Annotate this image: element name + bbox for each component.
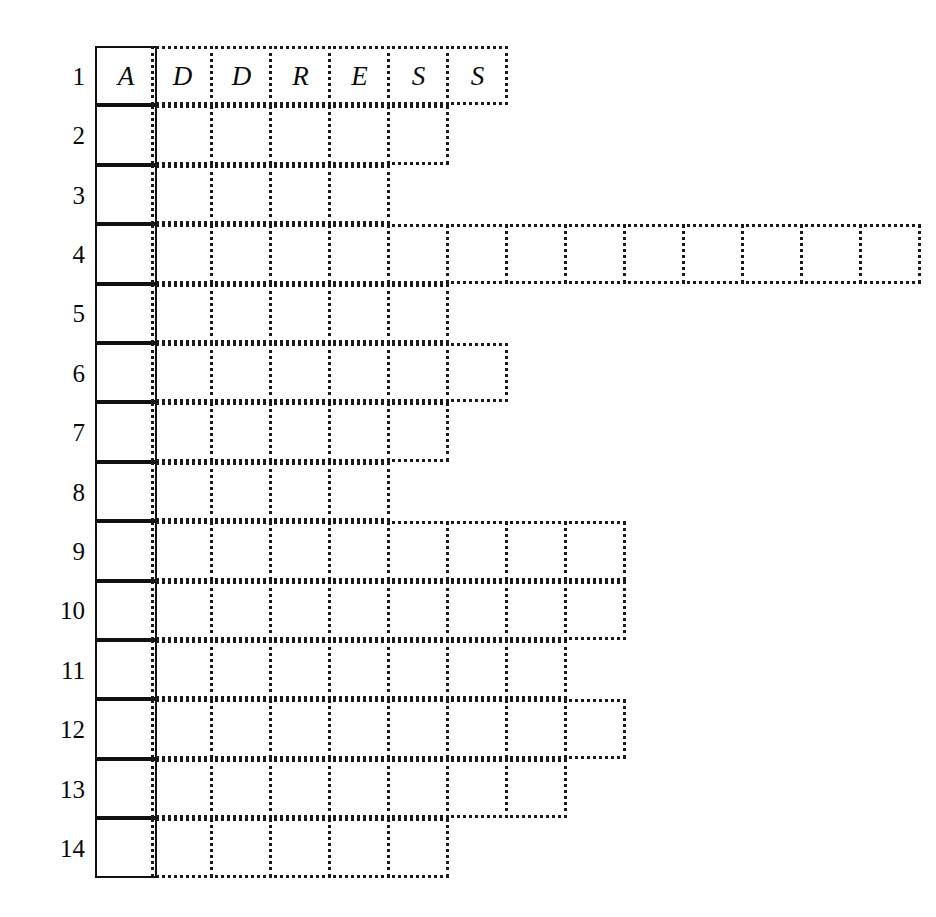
- answer-cell[interactable]: [505, 581, 567, 640]
- answer-cell[interactable]: R: [269, 46, 331, 105]
- answer-cell[interactable]: [387, 759, 449, 818]
- answer-cell[interactable]: [387, 699, 449, 758]
- answer-cell-solid[interactable]: [95, 224, 157, 283]
- answer-cell[interactable]: [387, 521, 449, 580]
- answer-cell[interactable]: [564, 224, 626, 283]
- answer-cell[interactable]: [151, 284, 213, 343]
- answer-cell[interactable]: [210, 699, 272, 758]
- answer-cell[interactable]: [387, 105, 449, 164]
- answer-cell[interactable]: [210, 640, 272, 699]
- answer-cell[interactable]: [210, 462, 272, 521]
- answer-cell[interactable]: [210, 818, 272, 877]
- answer-cell-solid[interactable]: [95, 818, 157, 877]
- answer-cell[interactable]: [151, 343, 213, 402]
- answer-cell[interactable]: [151, 818, 213, 877]
- answer-cell[interactable]: [564, 581, 626, 640]
- answer-cell[interactable]: [446, 224, 508, 283]
- answer-cell[interactable]: [269, 581, 331, 640]
- answer-cell[interactable]: [269, 818, 331, 877]
- answer-cell[interactable]: [328, 818, 390, 877]
- answer-cell[interactable]: [328, 165, 390, 224]
- answer-cell[interactable]: [623, 224, 685, 283]
- answer-cell[interactable]: [151, 581, 213, 640]
- answer-cell[interactable]: [151, 105, 213, 164]
- answer-cell[interactable]: [446, 699, 508, 758]
- answer-cell-solid[interactable]: [95, 699, 157, 758]
- answer-cell[interactable]: [151, 759, 213, 818]
- answer-cell-solid[interactable]: A: [95, 46, 157, 105]
- answer-cell[interactable]: [446, 640, 508, 699]
- answer-cell[interactable]: [328, 284, 390, 343]
- answer-cell[interactable]: [328, 759, 390, 818]
- answer-cell[interactable]: [269, 521, 331, 580]
- answer-cell[interactable]: [210, 105, 272, 164]
- answer-cell[interactable]: [387, 818, 449, 877]
- answer-cell[interactable]: [269, 402, 331, 461]
- answer-cell[interactable]: [328, 640, 390, 699]
- answer-cell[interactable]: D: [210, 46, 272, 105]
- answer-cell[interactable]: [210, 402, 272, 461]
- answer-cell[interactable]: [151, 699, 213, 758]
- answer-cell[interactable]: [387, 224, 449, 283]
- answer-cell[interactable]: [328, 105, 390, 164]
- answer-cell[interactable]: [387, 343, 449, 402]
- answer-cell[interactable]: [210, 521, 272, 580]
- answer-cell[interactable]: [505, 759, 567, 818]
- answer-cell[interactable]: [210, 759, 272, 818]
- answer-cell[interactable]: [564, 699, 626, 758]
- answer-cell[interactable]: [387, 581, 449, 640]
- answer-cell[interactable]: [328, 462, 390, 521]
- answer-cell[interactable]: [210, 224, 272, 283]
- answer-cell[interactable]: [859, 224, 921, 283]
- answer-cell[interactable]: [151, 521, 213, 580]
- answer-cell[interactable]: [269, 759, 331, 818]
- answer-cell[interactable]: [210, 165, 272, 224]
- answer-cell[interactable]: [269, 284, 331, 343]
- answer-cell-solid[interactable]: [95, 284, 157, 343]
- answer-cell[interactable]: [269, 462, 331, 521]
- answer-cell[interactable]: [328, 402, 390, 461]
- answer-cell[interactable]: [505, 224, 567, 283]
- answer-cell[interactable]: [564, 521, 626, 580]
- answer-cell[interactable]: [151, 462, 213, 521]
- answer-cell-solid[interactable]: [95, 640, 157, 699]
- answer-cell-solid[interactable]: [95, 165, 157, 224]
- answer-cell[interactable]: [210, 284, 272, 343]
- answer-cell[interactable]: [328, 699, 390, 758]
- answer-cell[interactable]: [151, 165, 213, 224]
- answer-cell-solid[interactable]: [95, 105, 157, 164]
- answer-cell[interactable]: [328, 224, 390, 283]
- answer-cell[interactable]: [328, 343, 390, 402]
- answer-cell[interactable]: S: [446, 46, 508, 105]
- answer-cell[interactable]: [210, 343, 272, 402]
- answer-cell[interactable]: [446, 521, 508, 580]
- answer-cell[interactable]: [269, 343, 331, 402]
- answer-cell[interactable]: [387, 284, 449, 343]
- answer-cell[interactable]: [210, 581, 272, 640]
- answer-cell[interactable]: [151, 224, 213, 283]
- answer-cell-solid[interactable]: [95, 521, 157, 580]
- answer-cell-solid[interactable]: [95, 581, 157, 640]
- answer-cell[interactable]: [269, 165, 331, 224]
- answer-cell[interactable]: [505, 640, 567, 699]
- answer-cell[interactable]: [387, 640, 449, 699]
- answer-cell[interactable]: S: [387, 46, 449, 105]
- answer-cell-solid[interactable]: [95, 462, 157, 521]
- answer-cell[interactable]: [269, 105, 331, 164]
- answer-cell[interactable]: [387, 402, 449, 461]
- answer-cell[interactable]: [446, 581, 508, 640]
- answer-cell[interactable]: [151, 640, 213, 699]
- answer-cell[interactable]: [800, 224, 862, 283]
- answer-cell[interactable]: [328, 521, 390, 580]
- answer-cell[interactable]: [682, 224, 744, 283]
- answer-cell[interactable]: D: [151, 46, 213, 105]
- answer-cell-solid[interactable]: [95, 402, 157, 461]
- answer-cell[interactable]: [446, 759, 508, 818]
- answer-cell[interactable]: [269, 224, 331, 283]
- answer-cell[interactable]: [505, 699, 567, 758]
- answer-cell[interactable]: [269, 699, 331, 758]
- answer-cell[interactable]: [328, 581, 390, 640]
- answer-cell[interactable]: [151, 402, 213, 461]
- answer-cell[interactable]: [446, 343, 508, 402]
- answer-cell[interactable]: E: [328, 46, 390, 105]
